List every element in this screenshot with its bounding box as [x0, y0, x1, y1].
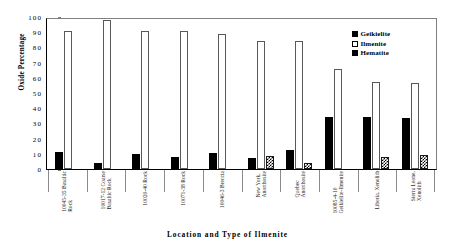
x-tick-label-line1: Quebec	[293, 180, 299, 197]
x-tick-label: 10071-38 Rock	[180, 171, 186, 206]
y-tick-label: 30	[33, 120, 42, 128]
legend-label: Ilmenite	[361, 40, 387, 48]
y-tick-label: 0	[37, 166, 42, 174]
bar-ilmenite	[295, 41, 303, 169]
bar-geikielite	[55, 152, 63, 169]
y-tick-label: 20	[33, 136, 42, 144]
legend-label: Hematite	[361, 49, 389, 57]
bar-group	[126, 19, 165, 169]
y-tick-label: 10	[33, 151, 42, 159]
x-tick-label-line2: Xenolith	[416, 171, 422, 201]
x-tick-label-line1: 10085-4-10	[332, 187, 338, 213]
chart-legend: GeikieliteIlmeniteHematite	[352, 30, 390, 57]
x-tick-label-line1: 10071-38 Rock	[180, 171, 186, 206]
x-tick-label: Liberia, Xenolith	[374, 171, 380, 210]
y-tick-label: 40	[33, 105, 42, 113]
x-tick-label: 10045-35 BasalticRock	[61, 171, 74, 212]
bar-hematite	[381, 157, 389, 169]
x-tick-label: QuebecAnorthosite	[293, 171, 306, 197]
x-tick-label-line1: 10046-3 Breccia	[219, 171, 225, 208]
x-tick-label-line1: 10017-12 Coarse	[100, 171, 106, 209]
bar-geikielite	[94, 163, 102, 169]
bar-group	[203, 19, 242, 169]
bar-ilmenite	[218, 34, 226, 169]
bar-group	[280, 19, 319, 169]
bar-ilmenite	[257, 41, 265, 169]
bar-group	[88, 19, 127, 169]
x-label-slot: Sierra Leone,Xenolith	[396, 171, 435, 227]
y-tick-label: 90	[33, 29, 42, 37]
x-label-slot: Liberia, Xenolith	[358, 171, 397, 227]
x-tick-label: 10020-40 Rock	[142, 171, 148, 206]
bar-ilmenite	[334, 69, 342, 169]
bar-ilmenite	[141, 31, 149, 169]
bar-geikielite	[325, 117, 333, 169]
bar-ilmenite	[64, 31, 72, 169]
legend-swatch-icon	[352, 41, 358, 47]
x-tick-label-line1: New York,	[254, 173, 260, 197]
bar-geikielite	[171, 157, 179, 169]
legend-swatch-icon	[352, 50, 358, 56]
bar-hematite	[304, 163, 312, 169]
x-tick-label-line1: Liberia, Xenolith	[374, 171, 380, 210]
x-tick-label-line2: Geikielite-Ilmenite	[338, 171, 344, 214]
ilmenite-oxide-percentage-chart: Oxide Percentage 0102030405060708090100 …	[0, 0, 455, 250]
x-tick-label: 10085-4-10Geikielite-Ilmenite	[332, 171, 345, 214]
y-tick-label: 70	[33, 60, 42, 68]
bar-ilmenite	[372, 82, 380, 169]
x-tick-label-line2: Rock	[67, 171, 73, 212]
x-axis-tick-labels: 10045-35 BasalticRock10017-12 CoarseBasa…	[46, 171, 437, 227]
y-axis-tick-labels: 0102030405060708090100	[14, 18, 44, 170]
legend-swatch-icon	[352, 31, 358, 37]
legend-item-hematite[interactable]: Hematite	[352, 49, 390, 57]
bar-geikielite	[132, 154, 140, 169]
bar-geikielite	[248, 158, 256, 169]
bar-geikielite	[209, 153, 217, 169]
x-tick-label: Sierra Leone,Xenolith	[409, 171, 422, 201]
x-tick-label-line2: Basaltic Rock	[106, 171, 112, 209]
bar-ilmenite	[411, 83, 419, 169]
x-tick-label-line1: 10020-40 Rock	[142, 171, 148, 206]
bar-ilmenite	[180, 31, 188, 169]
legend-item-geikielite[interactable]: Geikielite	[352, 30, 390, 38]
x-tick-label-line1: Sierra Leone,	[409, 171, 415, 201]
x-tick-label: 10017-12 CoarseBasaltic Rock	[100, 171, 113, 209]
y-tick-label: 50	[33, 90, 42, 98]
bar-group	[242, 19, 281, 169]
x-label-slot: 10071-38 Rock	[164, 171, 203, 227]
x-label-slot: 10017-12 CoarseBasaltic Rock	[87, 171, 126, 227]
x-label-slot: 10045-35 BasalticRock	[48, 171, 87, 227]
legend-item-ilmenite[interactable]: Ilmenite	[352, 40, 390, 48]
y-tick-label: 100	[28, 14, 42, 22]
x-label-slot: New York,Anorthosite	[242, 171, 281, 227]
x-label-slot: 10020-40 Rock	[125, 171, 164, 227]
bar-hematite	[420, 155, 428, 169]
x-label-slot: 10046-3 Breccia	[203, 171, 242, 227]
x-tick-label: New York,Anorthosite	[254, 171, 267, 197]
x-tick-label-line2: Anorthosite	[300, 171, 306, 197]
bar-group	[165, 19, 204, 169]
bar-group	[396, 19, 435, 169]
x-tick-label-line2: Anorthosite	[261, 171, 267, 197]
y-tick-label: 60	[33, 75, 42, 83]
bar-geikielite	[402, 118, 410, 169]
x-label-slot: QuebecAnorthosite	[280, 171, 319, 227]
bar-geikielite	[363, 117, 371, 169]
bar-group	[49, 19, 88, 169]
x-tick-label: 10046-3 Breccia	[219, 171, 225, 208]
bar-geikielite	[286, 150, 294, 169]
y-tick-label: 80	[33, 44, 42, 52]
bar-ilmenite	[103, 20, 111, 169]
bar-hematite	[266, 156, 274, 169]
legend-label: Geikielite	[361, 30, 391, 38]
x-axis-title: Location and Type of Ilmenite	[0, 230, 455, 239]
x-label-slot: 10085-4-10Geikielite-Ilmenite	[319, 171, 358, 227]
